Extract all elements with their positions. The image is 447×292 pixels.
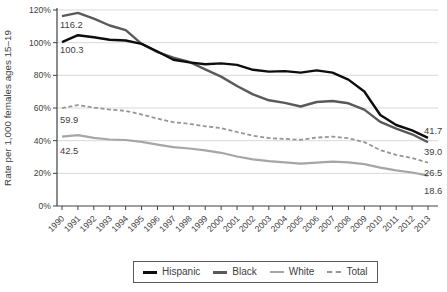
plot-area: 0%20%40%60%80%100%120%199019911992199319… [0,0,447,292]
data-label-start-total: 59.9 [60,114,78,125]
series-line-black [62,13,428,142]
series-line-total [62,105,428,163]
y-tick-label: 100% [29,38,51,48]
data-label-start-hispanic: 100.3 [60,44,83,55]
legend-item-hispanic: Hispanic [143,267,200,277]
legend-label-total: Total [346,267,367,277]
x-tick-label: 1990 [46,213,67,234]
x-tick-label: 2012 [396,213,417,234]
legend: HispanicBlackWhiteTotal [133,261,378,283]
x-tick-label: 2007 [316,213,337,234]
x-tick-label: 1993 [94,213,115,234]
data-label-end-white: 18.6 [424,185,442,196]
x-tick-label: 2008 [332,213,353,234]
legend-swatch-total [327,271,341,273]
x-tick-label: 1998 [173,213,194,234]
legend-item-white: White [270,267,315,277]
x-tick-label: 2013 [412,213,433,234]
x-tick-label: 1997 [157,213,178,234]
x-tick-label: 2011 [380,213,400,233]
x-tick-label: 1991 [62,213,83,234]
y-tick-label: 0% [39,201,52,211]
x-tick-label: 1992 [78,213,99,234]
legend-item-total: Total [327,267,367,277]
x-tick-label: 1995 [125,213,146,234]
legend-label-black: Black [232,267,256,277]
x-tick-label: 1996 [141,213,162,234]
data-label-start-white: 42.5 [60,145,78,156]
legend-swatch-black [213,271,227,274]
x-tick-label: 2009 [348,213,369,234]
x-tick-label: 2005 [285,213,306,234]
series-line-hispanic [62,35,428,138]
x-tick-label: 1994 [109,213,130,234]
x-tick-label: 2010 [364,213,385,234]
y-tick-label: 80% [34,70,52,80]
data-label-end-black: 39.0 [424,146,442,157]
chart: 0%20%40%60%80%100%120%199019911992199319… [0,0,447,292]
x-tick-label: 2002 [237,213,258,234]
data-label-end-total: 26.5 [424,167,442,178]
y-tick-label: 120% [29,5,51,15]
legend-label-white: White [289,267,315,277]
y-tick-label: 60% [34,103,52,113]
x-tick-label: 2003 [253,213,274,234]
x-tick-label: 2000 [205,213,226,234]
y-tick-label: 40% [34,136,52,146]
x-tick-label: 1999 [189,213,210,234]
legend-swatch-hispanic [143,271,157,274]
x-tick-label: 2001 [221,213,242,234]
legend-item-black: Black [213,267,256,277]
series-line-white [62,135,428,176]
legend-swatch-white [270,271,284,273]
data-label-start-black: 116.2 [60,19,83,30]
y-tick-label: 20% [34,168,52,178]
y-axis-title: Rate per 1,000 females ages 15–19 [2,30,13,186]
x-tick-label: 2006 [300,213,321,234]
x-tick-label: 2004 [269,213,290,234]
legend-label-hispanic: Hispanic [162,267,200,277]
data-label-end-hispanic: 41.7 [424,125,442,136]
